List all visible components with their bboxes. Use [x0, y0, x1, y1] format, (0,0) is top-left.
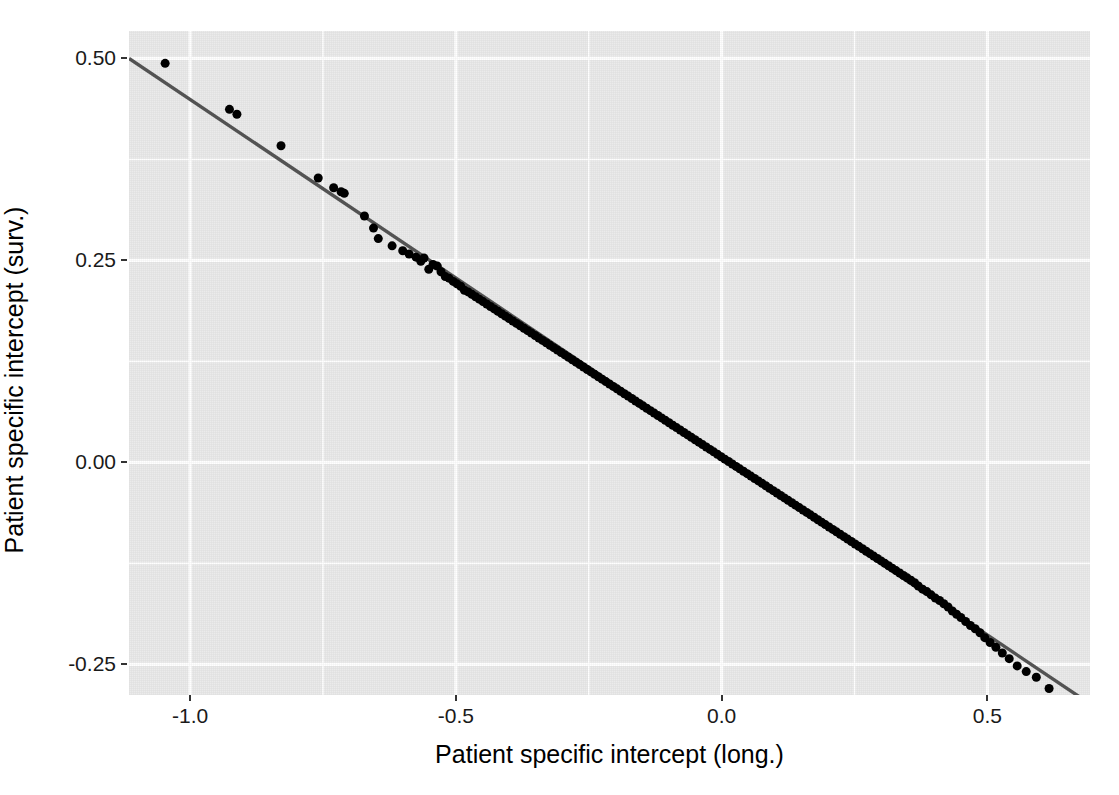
y-tick-mark [121, 461, 127, 463]
y-tick-mark [121, 259, 127, 261]
y-axis-title: Patient specific intercept (surv.) [0, 48, 34, 712]
y-tick-label: 0.50 [75, 47, 116, 68]
y-tick-mark [121, 663, 127, 665]
y-tick-label: -0.25 [68, 653, 116, 674]
y-tick-label: 0.00 [75, 451, 116, 472]
x-tick-mark [455, 695, 457, 701]
y-tick-label: 0.25 [75, 249, 116, 270]
y-tick-mark [121, 57, 127, 59]
plot-panel [129, 31, 1090, 695]
scatter-plot-figure: 0.500.250.00-0.25 -1.0-0.50.00.5 Patient… [0, 0, 1119, 795]
plot-area [129, 31, 1090, 695]
x-tick-label: -0.5 [406, 705, 506, 726]
x-tick-label: 0.0 [672, 705, 772, 726]
x-tick-mark [189, 695, 191, 701]
x-tick-mark [721, 695, 723, 701]
x-tick-mark [986, 695, 988, 701]
x-tick-label: 0.5 [937, 705, 1037, 726]
x-tick-label: -1.0 [140, 705, 240, 726]
x-axis-title: Patient specific intercept (long.) [129, 740, 1090, 769]
